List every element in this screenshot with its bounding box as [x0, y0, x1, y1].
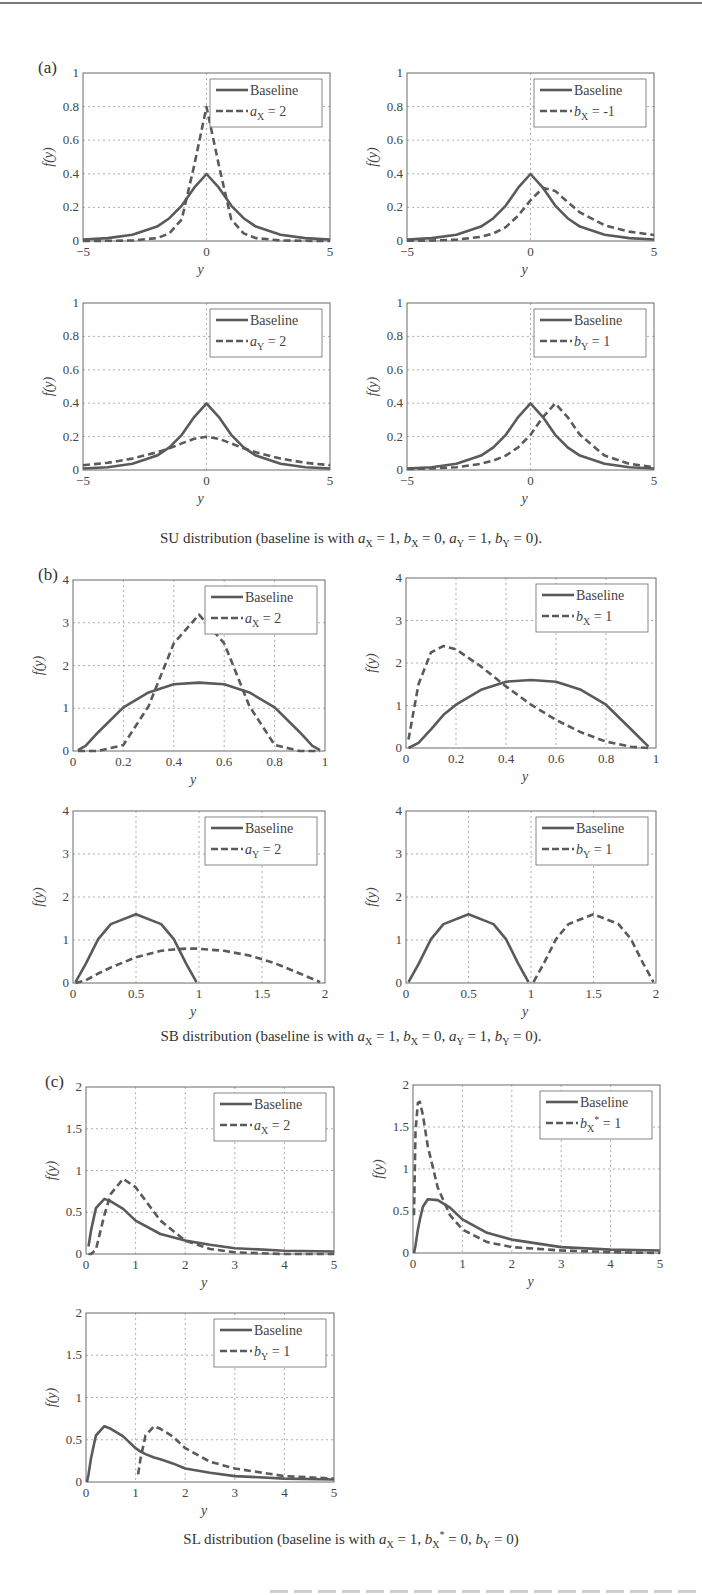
svg-text:Baseline: Baseline — [576, 588, 624, 603]
y-tick-label: 3 — [396, 613, 403, 628]
x-tick-label: 2 — [182, 1257, 189, 1272]
y-tick-label: 0 — [63, 975, 70, 990]
y-tick-label: 1 — [73, 65, 80, 80]
y-tick-label: 3 — [63, 846, 70, 861]
x-tick-label: 1 — [528, 986, 535, 1001]
series-line-dashed — [409, 646, 649, 748]
y-axis-label: f(y) — [371, 1159, 387, 1179]
plot-su-bx: −50500.20.40.60.81yf(y)BaselinebX = -1 — [407, 73, 654, 241]
y-tick-label: 4 — [396, 803, 403, 818]
y-axis-label: f(y) — [31, 655, 47, 675]
x-tick-label: 0.5 — [128, 986, 144, 1001]
legend: BaselineaX = 2 — [214, 1093, 326, 1141]
svg-text:Baseline: Baseline — [245, 821, 293, 836]
page-top-rule — [0, 2, 702, 4]
plot-sb-ay: 00.511.5201234yf(y)BaselineaY = 2 — [73, 811, 325, 983]
legend: BaselinebX* = 1 — [540, 1091, 652, 1139]
y-tick-label: 4 — [63, 572, 70, 587]
x-axis-label: y — [188, 1004, 197, 1019]
x-tick-label: 3 — [232, 1485, 239, 1500]
y-tick-label: 1 — [396, 698, 403, 713]
y-axis-label: f(y) — [364, 887, 380, 907]
y-tick-label: 0 — [76, 1246, 83, 1261]
x-tick-label: 0 — [70, 754, 77, 769]
y-tick-label: 2 — [63, 889, 70, 904]
y-tick-label: 0 — [396, 740, 403, 755]
plot-sb-bx: 00.20.40.60.8101234yf(y)BaselinebX = 1 — [406, 578, 656, 748]
y-tick-label: 1 — [76, 1390, 83, 1405]
y-tick-label: 1.5 — [66, 1121, 82, 1136]
x-tick-label: 5 — [651, 244, 658, 259]
x-tick-label: 5 — [327, 244, 334, 259]
x-tick-label: 4 — [281, 1257, 288, 1272]
y-tick-label: 1 — [403, 1161, 410, 1176]
caption-su: SU distribution (baseline is with aX = 1… — [0, 530, 702, 549]
y-tick-label: 3 — [63, 615, 70, 630]
svg-text:Baseline: Baseline — [574, 83, 622, 98]
y-tick-label: 1.5 — [393, 1119, 409, 1134]
x-tick-label: 0.5 — [460, 986, 476, 1001]
x-tick-label: 0 — [83, 1485, 90, 1500]
y-tick-label: 0 — [396, 975, 403, 990]
legend: BaselinebX = 1 — [536, 584, 648, 632]
caption-su-prefix: SU distribution (baseline is with — [160, 530, 358, 546]
y-tick-label: 0.6 — [63, 132, 80, 147]
caption-su-suffix: ). — [533, 530, 542, 546]
x-tick-label: 0.4 — [498, 751, 515, 766]
legend: BaselineaX = 2 — [205, 586, 317, 634]
y-tick-label: 0.8 — [63, 99, 79, 114]
y-tick-label: 0.4 — [63, 395, 80, 410]
plot-sl-bx: 01234500.511.52yf(y)BaselinebX* = 1 — [413, 1085, 660, 1253]
x-tick-label: 0.2 — [448, 751, 464, 766]
y-tick-label: 0.4 — [387, 395, 404, 410]
x-tick-label: 0 — [403, 986, 410, 1001]
x-axis-label: y — [195, 491, 204, 506]
panel-label-c: (c) — [45, 1072, 64, 1092]
x-tick-label: 2 — [509, 1256, 516, 1271]
y-tick-label: 0 — [397, 462, 404, 477]
series-line-dashed — [83, 437, 330, 465]
x-tick-label: 0 — [203, 244, 210, 259]
caption-sl-prefix: SL distribution (baseline is with — [183, 1531, 379, 1547]
x-tick-label: 2 — [322, 986, 329, 1001]
y-tick-label: 0 — [73, 462, 80, 477]
plot-sl-ax: 01234500.511.52yf(y)BaselineaX = 2 — [86, 1087, 334, 1254]
x-tick-label: 0 — [203, 473, 210, 488]
y-axis-label: f(y) — [44, 1160, 60, 1180]
y-axis-label: f(y) — [31, 887, 47, 907]
series-line-baseline — [89, 1199, 335, 1252]
x-tick-label: 1 — [459, 1256, 466, 1271]
y-tick-label: 1 — [63, 700, 70, 715]
y-tick-label: 1 — [397, 65, 404, 80]
y-axis-label: f(y) — [365, 376, 381, 396]
x-tick-label: 0 — [527, 244, 534, 259]
y-tick-label: 0.5 — [66, 1204, 82, 1219]
y-axis-label: f(y) — [44, 1387, 60, 1407]
svg-text:Baseline: Baseline — [254, 1323, 302, 1338]
y-tick-label: 4 — [63, 803, 70, 818]
x-tick-label: 1 — [132, 1485, 139, 1500]
cropped-figure-caption — [270, 1585, 700, 1595]
legend: BaselineaX = 2 — [210, 79, 322, 127]
y-tick-label: 0.8 — [63, 328, 79, 343]
x-tick-label: 1.5 — [585, 986, 601, 1001]
plot-sb-by: 00.511.5201234yf(y)BaselinebY = 1 — [406, 811, 656, 983]
plot-sb-ax: 00.20.40.60.8101234yf(y)BaselineaX = 2 — [73, 580, 325, 751]
x-axis-label: y — [520, 769, 529, 784]
x-tick-label: 4 — [281, 1485, 288, 1500]
svg-text:Baseline: Baseline — [574, 313, 622, 328]
x-tick-label: 5 — [651, 473, 658, 488]
series-line-baseline — [87, 1426, 334, 1482]
y-tick-label: 2 — [396, 889, 403, 904]
series-line-dashed — [89, 1179, 335, 1254]
panel-label-a: (a) — [38, 58, 57, 78]
series-line-baseline — [409, 680, 649, 748]
y-tick-label: 2 — [63, 658, 70, 673]
x-axis-label: y — [188, 772, 197, 787]
x-tick-label: 5 — [331, 1257, 338, 1272]
y-tick-label: 0.6 — [63, 362, 80, 377]
y-axis-label: f(y) — [364, 653, 380, 673]
x-tick-label: 1.5 — [254, 986, 270, 1001]
x-tick-label: 1 — [322, 754, 329, 769]
y-tick-label: 1 — [396, 932, 403, 947]
